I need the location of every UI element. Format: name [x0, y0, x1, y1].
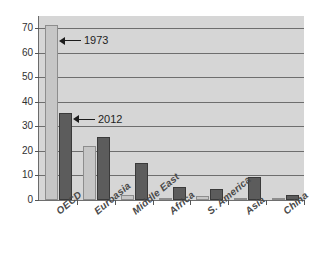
bar-1973-euroasia: [83, 146, 96, 200]
y-axis-tick-label: 0: [27, 195, 33, 205]
bar-group: [234, 16, 261, 200]
bar-1973-samerica: [196, 196, 209, 200]
annotation-label: 2012: [98, 114, 122, 125]
y-axis-tick-label: 60: [22, 48, 33, 58]
bar-group: [196, 16, 223, 200]
annotation-2012: 2012: [73, 113, 122, 125]
y-axis-tick: [35, 200, 39, 201]
y-axis-tick-label: 20: [22, 146, 33, 156]
y-axis-tick-label: 50: [22, 72, 33, 82]
bar-1973-china: [272, 198, 285, 200]
y-axis-tick-label: 10: [22, 170, 33, 180]
annotation-label: 1973: [84, 35, 108, 46]
bar-group: [272, 16, 299, 200]
bar-2012-euroasia: [97, 137, 110, 200]
bar-1973-africa: [159, 198, 172, 200]
y-axis-tick-label: 40: [22, 97, 33, 107]
bar-1973-oecd: [45, 25, 58, 200]
bar-group: [121, 16, 148, 200]
annotation-1973: 1973: [59, 35, 108, 47]
bar-chart: 010203040506070 1973 2012 OECDEuroasiaMi…: [0, 0, 312, 280]
bar-2012-oecd: [59, 113, 72, 200]
y-axis-tick-label: 30: [22, 121, 33, 131]
bar-1973-asia: [234, 198, 247, 200]
annotation-leader-line: [65, 40, 81, 41]
y-axis-tick-label: 70: [22, 23, 33, 33]
annotation-leader-line: [79, 119, 95, 120]
